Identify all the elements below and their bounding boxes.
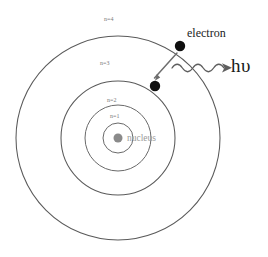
shell-label-n2: n=2 — [107, 97, 116, 103]
nucleus-label: nucleus — [127, 134, 156, 144]
photon-wave-line — [172, 64, 224, 72]
electron-label: electron — [187, 27, 226, 39]
shell-label-n4: n=4 — [104, 16, 113, 22]
electron-dot-initial — [175, 41, 185, 51]
electron-dot-final — [150, 81, 160, 91]
nucleus-dot — [114, 134, 123, 143]
photon-energy-label: hυ — [231, 56, 251, 75]
shell-label-n1: n=1 — [110, 113, 119, 119]
atom-diagram-svg — [0, 0, 268, 257]
shell-label-n3: n=3 — [100, 60, 109, 66]
bohr-model-diagram: n=4 n=3 n=2 n=1 electron nucleus hυ — [0, 0, 268, 257]
